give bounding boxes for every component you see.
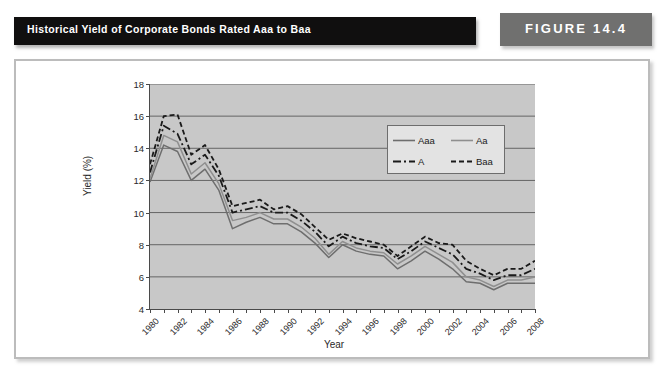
x-tick-label: 1996 — [360, 316, 381, 337]
x-tick-mark — [494, 309, 495, 313]
x-tick-mark — [398, 309, 399, 313]
x-tick-mark — [164, 309, 165, 313]
y-tick-label: 12 — [133, 175, 144, 186]
y-tick-mark — [146, 84, 150, 85]
x-tick-mark — [219, 309, 220, 313]
x-tick-mark — [329, 309, 330, 313]
x-tick-mark — [288, 309, 289, 313]
x-tick-label: 1986 — [222, 316, 243, 337]
x-tick-label: 1988 — [250, 316, 271, 337]
x-tick-mark — [425, 309, 426, 313]
figure-number-label: FIGURE 14.4 — [500, 21, 652, 36]
legend-label-baa: Baa — [476, 156, 493, 167]
legend-label-a: A — [418, 156, 424, 167]
x-tick-label: 2006 — [497, 316, 518, 337]
x-tick-label: 1980 — [140, 316, 161, 337]
page-title: Historical Yield of Corporate Bonds Rate… — [27, 23, 311, 35]
figure-number-tag: FIGURE 14.4 — [500, 13, 652, 46]
x-tick-mark — [178, 309, 179, 313]
x-tick-mark — [274, 309, 275, 313]
legend-swatch-aaa — [393, 136, 415, 145]
x-tick-mark — [453, 309, 454, 313]
x-tick-label: 2008 — [525, 316, 546, 337]
legend-row: AaaAa — [388, 130, 504, 150]
x-tick-label: 1994 — [332, 316, 353, 337]
legend-item-aa[interactable]: Aa — [446, 130, 504, 150]
x-tick-mark — [439, 309, 440, 313]
y-axis-label: Yield (%) — [82, 156, 93, 196]
x-tick-mark — [191, 309, 192, 313]
x-tick-label: 1984 — [195, 316, 216, 337]
legend-swatch-a — [393, 157, 415, 166]
y-tick-mark — [146, 148, 150, 149]
y-tick-label: 6 — [139, 271, 144, 282]
x-tick-mark — [301, 309, 302, 313]
x-tick-mark — [315, 309, 316, 313]
legend-swatch-baa — [451, 157, 473, 166]
x-tick-mark — [508, 309, 509, 313]
y-tick-mark — [146, 277, 150, 278]
x-tick-mark — [370, 309, 371, 313]
x-tick-mark — [233, 309, 234, 313]
legend-item-aaa[interactable]: Aaa — [388, 130, 446, 150]
x-tick-mark — [384, 309, 385, 313]
x-tick-mark — [260, 309, 261, 313]
x-tick-label: 2002 — [442, 316, 463, 337]
y-tick-label: 10 — [133, 207, 144, 218]
x-tick-mark — [343, 309, 344, 313]
legend-label-aa: Aa — [476, 135, 488, 146]
x-tick-mark — [480, 309, 481, 313]
y-tick-mark — [146, 180, 150, 181]
legend-item-a[interactable]: A — [388, 151, 446, 171]
x-tick-mark — [356, 309, 357, 313]
x-tick-label: 2000 — [415, 316, 436, 337]
plot-svg — [150, 84, 535, 309]
y-tick-mark — [146, 116, 150, 117]
y-tick-label: 18 — [133, 79, 144, 90]
x-tick-mark — [246, 309, 247, 313]
x-tick-mark — [150, 309, 151, 313]
x-tick-mark — [466, 309, 467, 313]
y-tick-label: 16 — [133, 111, 144, 122]
y-tick-label: 14 — [133, 143, 144, 154]
figure-header: Historical Yield of Corporate Bonds Rate… — [0, 0, 666, 56]
chart: Yield (%) AaaAaABaa 46810121416181980198… — [16, 61, 652, 361]
y-tick-mark — [146, 245, 150, 246]
y-tick-mark — [146, 213, 150, 214]
x-tick-mark — [521, 309, 522, 313]
y-tick-label: 8 — [139, 239, 144, 250]
x-tick-label: 1998 — [387, 316, 408, 337]
x-tick-label: 1990 — [277, 316, 298, 337]
x-tick-mark — [411, 309, 412, 313]
x-axis-label: Year — [16, 339, 652, 350]
legend-item-baa[interactable]: Baa — [446, 151, 504, 171]
x-tick-label: 1992 — [305, 316, 326, 337]
x-tick-label: 1982 — [167, 316, 188, 337]
chart-legend: AaaAaABaa — [387, 125, 505, 174]
y-tick-label: 4 — [139, 304, 144, 315]
x-tick-mark — [205, 309, 206, 313]
legend-row: ABaa — [388, 151, 504, 171]
plot-area: AaaAaABaa 468101214161819801982198419861… — [149, 84, 535, 310]
x-tick-label: 2004 — [470, 316, 491, 337]
x-tick-mark — [535, 309, 536, 313]
title-bar: Historical Yield of Corporate Bonds Rate… — [14, 17, 476, 45]
legend-swatch-aa — [451, 136, 473, 145]
figure-panel: Yield (%) AaaAaABaa 46810121416181980198… — [14, 59, 650, 359]
legend-label-aaa: Aaa — [418, 135, 435, 146]
